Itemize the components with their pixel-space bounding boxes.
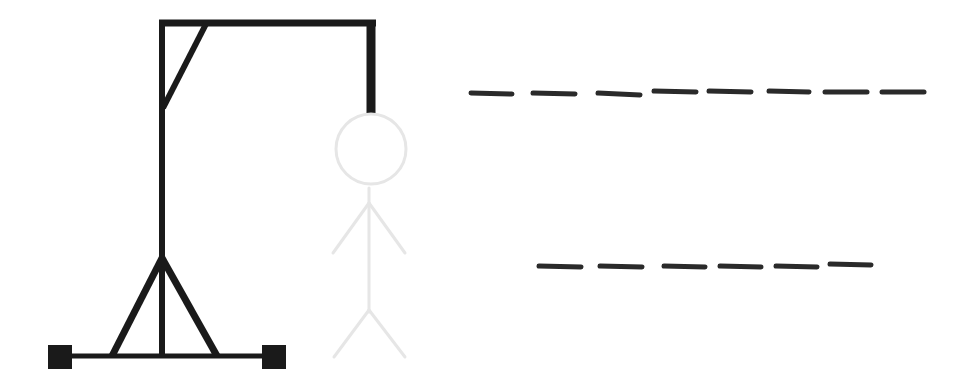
- figure-head: [336, 114, 406, 184]
- word-row-2: [539, 264, 871, 267]
- stick-figure-icon: [333, 114, 406, 357]
- gallows-brace: [163, 24, 206, 108]
- letter-blank: [830, 264, 871, 265]
- letter-blank: [598, 93, 640, 95]
- letter-blank: [539, 266, 581, 267]
- letter-blank: [471, 93, 512, 94]
- letter-blank: [720, 266, 761, 267]
- letter-blank: [600, 266, 642, 267]
- figure-arm-right: [369, 203, 405, 253]
- figure-arm-left: [333, 203, 369, 253]
- figure-leg-right: [369, 310, 405, 357]
- word-row-1: [471, 91, 924, 95]
- letter-blank: [654, 91, 696, 92]
- gallows-base-right-block: [262, 345, 286, 369]
- hangman-drawing: [0, 0, 970, 372]
- letter-blank: [776, 266, 817, 267]
- figure-leg-left: [334, 310, 369, 357]
- letter-blank: [533, 93, 575, 94]
- gallows-icon: [48, 20, 376, 369]
- gallows-base-left-block: [48, 345, 72, 369]
- letter-blank: [664, 266, 705, 267]
- letter-blank: [709, 91, 751, 92]
- letter-blank: [769, 91, 809, 92]
- hangman-board: Hangman: [0, 0, 970, 372]
- gallows-leg-left: [112, 258, 162, 356]
- gallows-leg-right: [162, 258, 217, 356]
